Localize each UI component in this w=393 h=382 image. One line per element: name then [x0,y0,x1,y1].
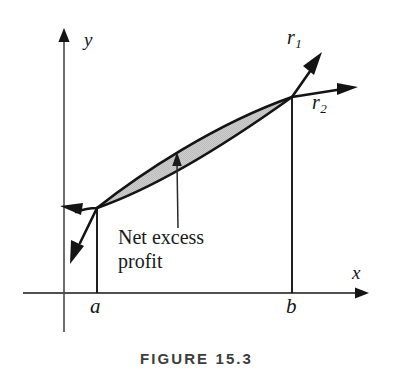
y-axis-label: y [84,30,92,49]
curve-label-r2: r2 [312,92,327,115]
x-axis-label: x [352,263,360,282]
curve-label-r2-subscript: 2 [320,101,327,116]
y-axis [58,28,69,332]
arrowhead-r2-left [70,240,84,264]
shaded-region-net-excess-profit [97,97,292,208]
curve-label-r1: r1 [287,27,302,50]
x-tick-label-b: b [286,296,297,317]
curve-label-r2-base: r [312,91,320,113]
diagram-canvas [0,0,393,382]
curve-label-r1-base: r [287,26,295,48]
x-tick-label-a: a [90,296,101,317]
x-axis [23,288,369,299]
arrowhead-r1 [303,52,322,75]
figure-caption: FIGURE 15.3 [0,350,393,367]
figure-container: y x a b r1 r2 Net excess profit FIGURE 1… [0,0,393,382]
annotation-net-excess-profit-label: Net excess profit [118,226,248,273]
curve-label-r1-subscript: 1 [295,36,302,51]
annotation-pointer-arrow [172,152,182,228]
curve-r1 [76,52,322,212]
arrowhead-r2 [337,83,358,95]
